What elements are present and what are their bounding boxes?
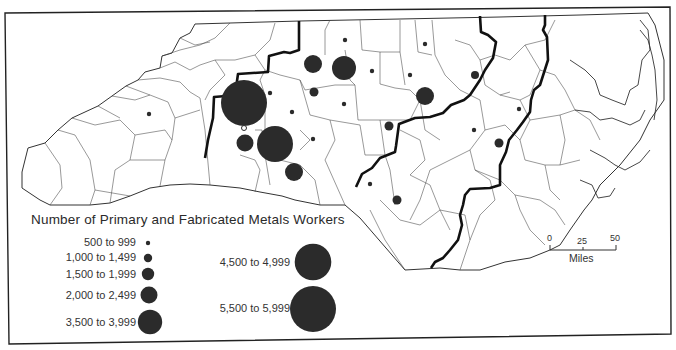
scale-unit-label: Miles bbox=[569, 252, 594, 264]
symbol-500-999 bbox=[268, 91, 272, 95]
symbol-500-999 bbox=[147, 112, 151, 116]
symbol-500-999 bbox=[368, 182, 372, 186]
symbol-500-999 bbox=[242, 126, 247, 131]
symbol-1000-1499 bbox=[471, 71, 479, 79]
legend-symbol-4500-4999 bbox=[295, 244, 332, 281]
symbol-1500-1999 bbox=[393, 196, 402, 205]
symbol-2000-2499 bbox=[304, 55, 322, 73]
symbol-5500-5999 bbox=[221, 80, 267, 126]
symbol-500-999 bbox=[423, 42, 427, 46]
legend-label-1500-1999: 1,500 to 1,999 bbox=[30, 268, 136, 280]
legend-symbol-5500-5999 bbox=[290, 286, 336, 332]
symbol-500-999 bbox=[311, 137, 315, 141]
symbol-500-999 bbox=[517, 107, 521, 111]
legend-title: Number of Primary and Fabricated Metals … bbox=[31, 212, 345, 227]
symbol-3500-3999 bbox=[332, 56, 356, 80]
symbol-2000-2499 bbox=[237, 135, 254, 152]
symbol-500-999 bbox=[472, 128, 476, 132]
legend-label-4500-4999: 4,500 to 4,999 bbox=[190, 256, 290, 268]
symbol-500-999 bbox=[343, 38, 347, 42]
symbol-4500-4999 bbox=[257, 126, 293, 162]
symbol-500-999 bbox=[408, 73, 412, 77]
legend-label-5500-5999: 5,500 to 5,999 bbox=[190, 302, 290, 314]
state-outline bbox=[22, 13, 664, 270]
symbol-500-999 bbox=[370, 69, 374, 73]
legend-symbols bbox=[138, 241, 336, 334]
scale-tick-50: 50 bbox=[610, 233, 620, 243]
symbol-1500-1999 bbox=[385, 122, 394, 131]
symbol-1500-1999 bbox=[310, 88, 319, 97]
scale-tick-25: 25 bbox=[577, 236, 587, 246]
symbol-2000-2499 bbox=[285, 163, 303, 181]
legend-symbol-2000-2499 bbox=[141, 287, 158, 304]
symbol-500-999 bbox=[290, 110, 294, 114]
legend-label-3500-3999: 3,500 to 3,999 bbox=[30, 316, 136, 328]
legend-symbol-1000-1499 bbox=[144, 254, 152, 262]
scale-tick-0: 0 bbox=[547, 233, 552, 243]
legend-label-2000-2499: 2,000 to 2,499 bbox=[30, 289, 136, 301]
symbol-1500-1999 bbox=[495, 139, 504, 148]
symbol-500-999 bbox=[342, 102, 346, 106]
legend-symbol-3500-3999 bbox=[138, 310, 162, 334]
symbol-2000-2499 bbox=[416, 87, 434, 105]
legend-label-1000-1499: 1,000 to 1,499 bbox=[30, 251, 136, 263]
legend-label-500-999: 500 to 999 bbox=[40, 236, 136, 248]
legend-symbol-1500-1999 bbox=[142, 268, 154, 280]
legend-symbol-500-999 bbox=[146, 241, 150, 245]
